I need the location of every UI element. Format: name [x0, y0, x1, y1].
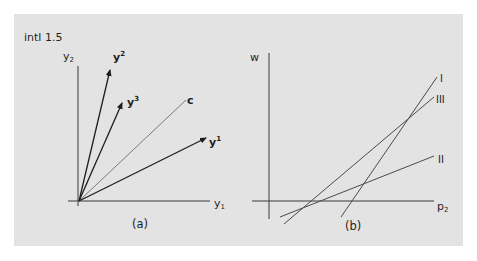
- line-I-label: I: [440, 72, 443, 85]
- figure-canvas: intl 1.5 y2 y1 c y2 y3 y1 (a): [0, 0, 477, 261]
- vector-y1: [79, 138, 206, 201]
- diagram-a: y2 y1 c y2 y3 y1 (a): [63, 50, 225, 231]
- figure-tag: intl 1.5: [24, 31, 62, 44]
- vector-y2: [79, 70, 110, 201]
- line-III-label: III: [436, 93, 445, 106]
- y2-axis-label: y2: [63, 50, 74, 64]
- diagram-b: w p2 I III II (b): [250, 51, 448, 233]
- line-I: [341, 77, 437, 217]
- ray-c: [79, 100, 186, 201]
- vector-y2-label: y2: [113, 50, 125, 64]
- line-III: [284, 97, 434, 224]
- y1-axis-label: y1: [214, 197, 225, 211]
- line-II: [280, 156, 434, 217]
- vector-y1-label: y1: [209, 135, 221, 149]
- line-II-label: II: [438, 153, 444, 166]
- w-axis-label: w: [250, 51, 259, 64]
- p2-axis-label: p2: [437, 200, 448, 214]
- vector-y3: [79, 103, 122, 201]
- caption-b: (b): [345, 219, 361, 233]
- vector-y3-label: y3: [127, 95, 139, 109]
- caption-a: (a): [132, 217, 148, 231]
- ray-c-label: c: [187, 94, 194, 107]
